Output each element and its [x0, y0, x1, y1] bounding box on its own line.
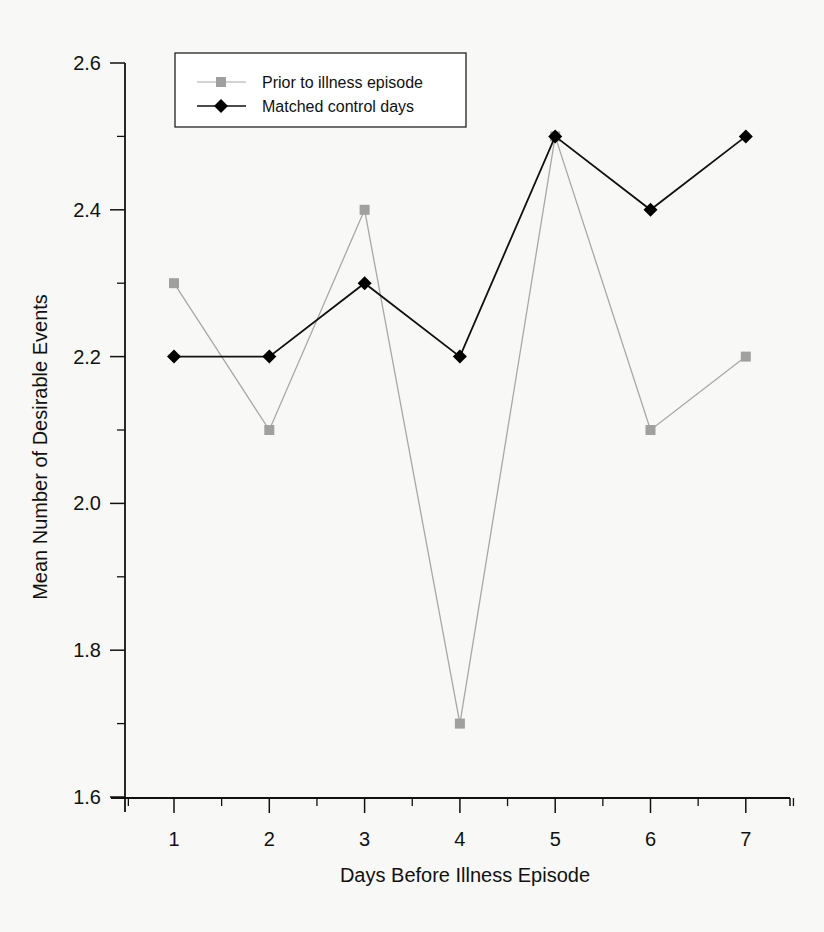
- legend-label-prior: Prior to illness episode: [262, 74, 423, 91]
- square-marker-icon: [169, 278, 179, 288]
- x-tick-label: 4: [454, 828, 465, 850]
- square-marker-icon: [646, 425, 656, 435]
- square-marker-icon: [741, 352, 751, 362]
- plot-area: [167, 129, 753, 728]
- square-marker-icon: [360, 205, 370, 215]
- x-tick-label: 1: [168, 828, 179, 850]
- x-tick-label: 5: [550, 828, 561, 850]
- series-line: [174, 136, 746, 723]
- square-marker-icon: [455, 719, 465, 729]
- axes: 1.61.82.02.22.42.61234567: [73, 52, 793, 850]
- series-prior-to-illness: [169, 131, 751, 728]
- legend-label-control: Matched control days: [262, 98, 414, 115]
- x-tick-label: 7: [740, 828, 751, 850]
- y-tick-label: 2.6: [73, 52, 101, 74]
- square-marker-icon: [264, 425, 274, 435]
- legend: Prior to illness episode Matched control…: [175, 53, 466, 127]
- series-line: [174, 136, 746, 356]
- square-marker-icon: [216, 77, 226, 87]
- diamond-marker-icon: [167, 350, 181, 364]
- x-tick-label: 3: [359, 828, 370, 850]
- y-tick-label: 2.0: [73, 492, 101, 514]
- y-tick-label: 1.6: [73, 786, 101, 808]
- y-tick-label: 2.4: [73, 199, 101, 221]
- y-tick-label: 1.8: [73, 639, 101, 661]
- series-matched-control: [167, 129, 753, 363]
- x-axis-title: Days Before Illness Episode: [340, 864, 590, 886]
- y-axis-title: Mean Number of Desirable Events: [29, 294, 51, 600]
- x-tick-label: 6: [645, 828, 656, 850]
- y-tick-label: 2.2: [73, 346, 101, 368]
- x-tick-label: 2: [264, 828, 275, 850]
- line-chart: 1.61.82.02.22.42.61234567 Days Before Il…: [0, 0, 824, 932]
